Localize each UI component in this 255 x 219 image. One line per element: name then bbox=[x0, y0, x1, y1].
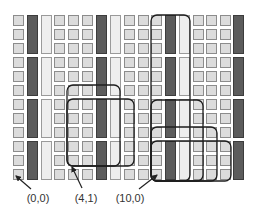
grid-cell bbox=[207, 156, 217, 166]
grid-cell bbox=[207, 72, 217, 82]
grid-cell bbox=[221, 58, 231, 68]
coordinate-label: (4,1) bbox=[75, 192, 98, 204]
grid-cell bbox=[139, 114, 149, 124]
grid-cell bbox=[194, 16, 204, 26]
grid-cell bbox=[139, 156, 149, 166]
grid-diagram bbox=[0, 0, 255, 219]
grid-cell bbox=[152, 30, 162, 40]
grid-cell bbox=[152, 156, 162, 166]
grid-cell bbox=[221, 100, 231, 110]
grid-cell bbox=[83, 86, 93, 96]
grid-cell bbox=[207, 30, 217, 40]
grid-cell bbox=[207, 86, 217, 96]
light-bar bbox=[111, 100, 121, 138]
grid-cell bbox=[207, 44, 217, 54]
light-bar bbox=[42, 58, 52, 96]
grid-cell bbox=[55, 114, 65, 124]
grid-cell bbox=[14, 72, 24, 82]
dark-bar bbox=[97, 142, 107, 180]
grid-cell bbox=[83, 72, 93, 82]
grid-cell bbox=[139, 128, 149, 138]
light-bar bbox=[180, 58, 190, 96]
dark-bar bbox=[234, 142, 244, 180]
dark-bar bbox=[234, 58, 244, 96]
grid-cell bbox=[125, 86, 135, 96]
grid-cell bbox=[207, 100, 217, 110]
dark-bar bbox=[166, 100, 176, 138]
grid-cell bbox=[125, 58, 135, 68]
grid-cell bbox=[152, 44, 162, 54]
grid-cell bbox=[152, 72, 162, 82]
grid-cell bbox=[221, 128, 231, 138]
grid-cell bbox=[83, 114, 93, 124]
grid-cell bbox=[69, 16, 79, 26]
grid-cell bbox=[69, 156, 79, 166]
grid-cell bbox=[55, 30, 65, 40]
grid-cell bbox=[69, 72, 79, 82]
grid-cell bbox=[14, 58, 24, 68]
grid-cell bbox=[207, 114, 217, 124]
grid-cell bbox=[125, 114, 135, 124]
grid-cell bbox=[139, 170, 149, 180]
grid-cell bbox=[139, 142, 149, 152]
grid-cell bbox=[152, 86, 162, 96]
grid-cell bbox=[69, 142, 79, 152]
grid-cell bbox=[83, 170, 93, 180]
grid-cell bbox=[55, 44, 65, 54]
grid-cell bbox=[207, 142, 217, 152]
dark-bar bbox=[28, 100, 38, 138]
grid-cell bbox=[221, 156, 231, 166]
grid-cell bbox=[194, 30, 204, 40]
grid-cell bbox=[69, 44, 79, 54]
grid-cell bbox=[194, 156, 204, 166]
grid-cell bbox=[55, 72, 65, 82]
grid-cell bbox=[139, 16, 149, 26]
grid-cell bbox=[221, 44, 231, 54]
light-bar bbox=[42, 16, 52, 54]
grid-cell bbox=[55, 156, 65, 166]
grid-cell bbox=[55, 142, 65, 152]
dark-bar bbox=[166, 142, 176, 180]
light-bar bbox=[42, 142, 52, 180]
dark-bar bbox=[234, 16, 244, 54]
grid-cell bbox=[152, 58, 162, 68]
dark-bar bbox=[166, 58, 176, 96]
grid-cell bbox=[55, 58, 65, 68]
grid-cell bbox=[14, 128, 24, 138]
grid-cell bbox=[83, 128, 93, 138]
grid-cell bbox=[221, 30, 231, 40]
dark-bar bbox=[28, 142, 38, 180]
grid-cell bbox=[221, 72, 231, 82]
coordinate-label: (10,0) bbox=[116, 192, 145, 204]
grid-cell bbox=[221, 86, 231, 96]
grid-cell bbox=[194, 128, 204, 138]
grid-cell bbox=[194, 100, 204, 110]
light-bar bbox=[111, 142, 121, 180]
grid-cell bbox=[139, 100, 149, 110]
grid-cell bbox=[207, 16, 217, 26]
grid-cell bbox=[125, 44, 135, 54]
grid-cell bbox=[125, 170, 135, 180]
grid-cell bbox=[14, 156, 24, 166]
grid-cell bbox=[139, 72, 149, 82]
grid-cell bbox=[194, 114, 204, 124]
dark-bar bbox=[28, 16, 38, 54]
grid-cell bbox=[14, 44, 24, 54]
grid-cell bbox=[139, 58, 149, 68]
grid-cell bbox=[83, 44, 93, 54]
light-bar bbox=[111, 16, 121, 54]
grid-cell bbox=[83, 156, 93, 166]
grid-cell bbox=[55, 170, 65, 180]
grid-cell bbox=[194, 142, 204, 152]
grid-cell bbox=[194, 44, 204, 54]
grid-cell bbox=[55, 16, 65, 26]
light-bar bbox=[180, 142, 190, 180]
grid-cell bbox=[139, 86, 149, 96]
grid-cell bbox=[14, 142, 24, 152]
grid-cell bbox=[83, 142, 93, 152]
grid-cell bbox=[125, 72, 135, 82]
grid-cell bbox=[207, 170, 217, 180]
dark-bar bbox=[97, 16, 107, 54]
grid-cell bbox=[83, 16, 93, 26]
grid-cell bbox=[83, 30, 93, 40]
